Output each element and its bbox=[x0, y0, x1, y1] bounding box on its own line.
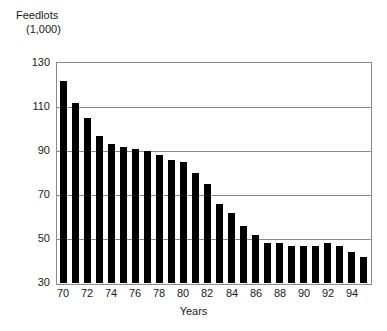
bar bbox=[180, 162, 187, 283]
bar bbox=[120, 147, 127, 283]
x-axis-tick-label: 80 bbox=[177, 287, 189, 300]
x-axis-tick-label: 76 bbox=[129, 287, 141, 300]
bar bbox=[228, 213, 235, 283]
x-axis-title: Years bbox=[0, 305, 387, 318]
bar bbox=[192, 173, 199, 283]
bar-series bbox=[57, 63, 370, 283]
y-axis-title: Feedlots (1,000) bbox=[16, 8, 61, 36]
bar bbox=[96, 136, 103, 283]
bar bbox=[72, 103, 79, 283]
x-axis-tick-label: 90 bbox=[298, 287, 310, 300]
x-axis-tick-labels: 70727476788082848688909294 bbox=[57, 287, 370, 303]
x-axis-tick-label: 84 bbox=[226, 287, 238, 300]
bar bbox=[156, 155, 163, 283]
x-axis-tick-label: 88 bbox=[274, 287, 286, 300]
bar bbox=[144, 151, 151, 283]
x-axis-tick-label: 82 bbox=[201, 287, 213, 300]
x-axis-tick-label: 72 bbox=[81, 287, 93, 300]
y-axis-tick-label: 30 bbox=[2, 277, 50, 288]
y-axis-tick-label: 70 bbox=[2, 189, 50, 200]
bar bbox=[132, 149, 139, 283]
x-axis-tick-label: 78 bbox=[153, 287, 165, 300]
bar bbox=[60, 81, 67, 283]
bar bbox=[288, 246, 295, 283]
bar bbox=[216, 204, 223, 283]
bar bbox=[108, 144, 115, 283]
bar bbox=[276, 243, 283, 283]
y-axis-tick-label: 110 bbox=[2, 101, 50, 112]
y-axis-tick-label: 130 bbox=[2, 57, 50, 68]
bar bbox=[204, 184, 211, 283]
bar bbox=[348, 252, 355, 283]
bar bbox=[324, 243, 331, 283]
bar bbox=[168, 160, 175, 283]
bar bbox=[84, 118, 91, 283]
bar bbox=[360, 257, 367, 283]
bar bbox=[252, 235, 259, 283]
x-axis-tick-label: 92 bbox=[322, 287, 334, 300]
bar bbox=[264, 243, 271, 283]
bar bbox=[300, 246, 307, 283]
y-axis-tick-label: 90 bbox=[2, 145, 50, 156]
y-axis-title-line1: Feedlots bbox=[16, 8, 61, 22]
bar-chart: Feedlots (1,000) 13011090705030 70727476… bbox=[0, 0, 387, 331]
y-axis-tick-labels: 13011090705030 bbox=[0, 62, 50, 283]
bar bbox=[312, 246, 319, 283]
x-axis-tick-label: 70 bbox=[57, 287, 69, 300]
x-axis-tick-label: 86 bbox=[250, 287, 262, 300]
y-axis-title-line2: (1,000) bbox=[16, 22, 61, 36]
bar bbox=[336, 246, 343, 283]
x-axis-tick-label: 74 bbox=[105, 287, 117, 300]
x-axis-tick-label: 94 bbox=[346, 287, 358, 300]
y-axis-tick-label: 50 bbox=[2, 233, 50, 244]
bar bbox=[240, 226, 247, 283]
